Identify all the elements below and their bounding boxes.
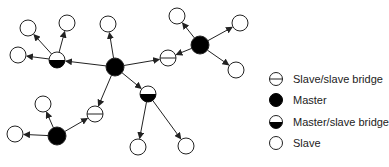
master-icon bbox=[268, 92, 284, 108]
slave-icon bbox=[268, 135, 284, 151]
edge-arrow bbox=[47, 112, 54, 128]
nodes bbox=[7, 8, 248, 155]
node-slave-slave-bridge bbox=[160, 50, 176, 66]
node-slave bbox=[20, 20, 36, 36]
node-slave bbox=[178, 138, 194, 154]
edge-arrow bbox=[109, 33, 113, 58]
node-slave bbox=[10, 47, 26, 63]
edge-arrow bbox=[140, 102, 147, 138]
legend-item-slave: Slave bbox=[268, 133, 389, 155]
legend-label: Master bbox=[293, 94, 327, 106]
slave-slave-bridge-icon bbox=[268, 71, 284, 87]
node-slave-slave-bridge bbox=[87, 106, 103, 122]
edge-arrow bbox=[124, 60, 159, 66]
edge-arrow bbox=[24, 134, 48, 135]
node-slave bbox=[228, 62, 244, 78]
legend-label: Master/slave bridge bbox=[293, 116, 389, 128]
node-master-slave-bridge bbox=[49, 52, 65, 68]
legend-item-slave-slave-bridge: Slave/slave bridge bbox=[268, 68, 389, 90]
edge-arrow bbox=[122, 73, 141, 89]
node-master bbox=[48, 127, 66, 145]
edge-arrow bbox=[183, 23, 195, 38]
edge-arrow bbox=[65, 119, 87, 132]
edge-arrow bbox=[59, 32, 65, 53]
node-master bbox=[106, 58, 124, 76]
edge-arrow bbox=[66, 61, 106, 66]
edge-arrow bbox=[207, 50, 228, 65]
node-master-slave-bridge bbox=[140, 86, 156, 102]
node-master bbox=[191, 36, 209, 54]
edge-arrow bbox=[153, 100, 181, 138]
legend-item-master-slave-bridge: Master/slave bridge bbox=[268, 111, 389, 133]
legend-item-master: Master bbox=[268, 90, 389, 112]
node-slave bbox=[100, 16, 116, 32]
node-slave bbox=[130, 139, 146, 155]
node-slave bbox=[35, 96, 51, 112]
node-slave bbox=[7, 126, 23, 142]
edge-arrow bbox=[34, 35, 52, 54]
edge-arrow bbox=[99, 75, 112, 105]
legend-label: Slave bbox=[293, 137, 321, 149]
edge-arrow bbox=[27, 56, 49, 59]
master-slave-bridge-icon bbox=[268, 114, 284, 130]
node-slave bbox=[232, 15, 248, 31]
edge-arrow bbox=[208, 27, 232, 40]
legend-label: Slave/slave bridge bbox=[293, 73, 383, 85]
legend: Slave/slave bridge Master Master/slave b… bbox=[268, 68, 389, 154]
edge-arrow bbox=[176, 48, 191, 54]
node-slave bbox=[169, 8, 185, 24]
node-slave bbox=[59, 15, 75, 31]
